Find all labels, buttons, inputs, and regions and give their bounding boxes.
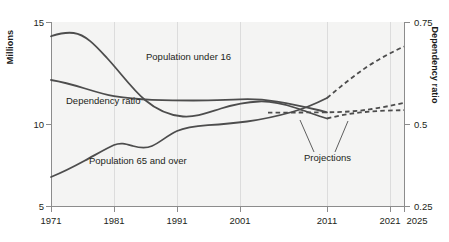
projections-leader-line-left	[300, 120, 314, 152]
y-axis-right	[405, 22, 411, 207]
y-tick-label-left-15: 15	[20, 17, 44, 28]
gridlines	[115, 22, 391, 207]
y-tick-label-left-5: 5	[20, 201, 44, 212]
projections-leader-lines	[300, 120, 348, 152]
annotation-projections: Projections	[304, 152, 351, 163]
x-tick-label-1981: 1981	[94, 215, 134, 226]
x-tick-label-1991: 1991	[157, 215, 197, 226]
y-axis-left	[46, 22, 52, 207]
x-tick-label-2001: 2001	[220, 215, 260, 226]
x-axis	[51, 207, 405, 213]
x-tick-label-1971: 1971	[31, 215, 71, 226]
series-line-population-65-and-over-projected	[327, 47, 404, 99]
chart-canvas	[0, 0, 449, 242]
series-label-population-65-and-over: Population 65 and over	[89, 155, 187, 166]
y-tick-label-right-05: 0.5	[414, 119, 446, 130]
x-tick-label-2011: 2011	[307, 215, 347, 226]
x-tick-label-2025: 2025	[397, 215, 437, 226]
y-axis-left-title: Millions	[5, 20, 15, 74]
series-label-population-under-16: Population under 16	[146, 51, 231, 62]
y-tick-label-left-10: 10	[20, 119, 44, 130]
chart-container: Millions Dependency ratio 15 10 5 0.75 0…	[0, 0, 449, 242]
y-tick-label-right-075: 0.75	[414, 17, 446, 28]
y-tick-label-right-025: 0.25	[414, 201, 446, 212]
series-label-dependency-ratio: Dependency ratio	[66, 95, 140, 106]
y-axis-right-title: Dependency ratio	[430, 24, 440, 106]
projections-leader-line-right	[335, 121, 348, 152]
